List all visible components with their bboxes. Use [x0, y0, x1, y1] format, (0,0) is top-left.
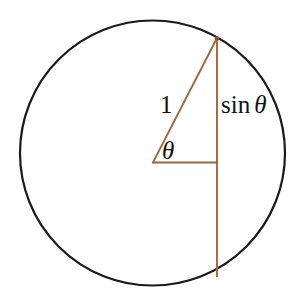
- diagram-background: [0, 0, 297, 305]
- angle-theta-label: θ: [162, 138, 174, 163]
- sine-theta-label: sinθ: [221, 92, 266, 117]
- unit-circle-diagram-svg: [0, 0, 297, 305]
- sine-function-name: sin: [221, 91, 250, 118]
- radius-length-label: 1: [160, 92, 173, 117]
- apex-point-marker: [215, 36, 220, 41]
- figure-container: 1 θ sinθ: [0, 0, 297, 305]
- sine-theta-symbol: θ: [254, 91, 266, 118]
